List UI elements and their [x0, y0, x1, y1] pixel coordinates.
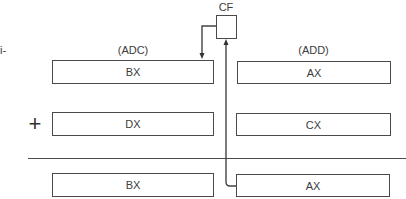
carry-out-arrow-icon [226, 43, 236, 186]
carry-flow-arrows [0, 0, 406, 199]
carry-in-arrow-icon [202, 26, 216, 57]
